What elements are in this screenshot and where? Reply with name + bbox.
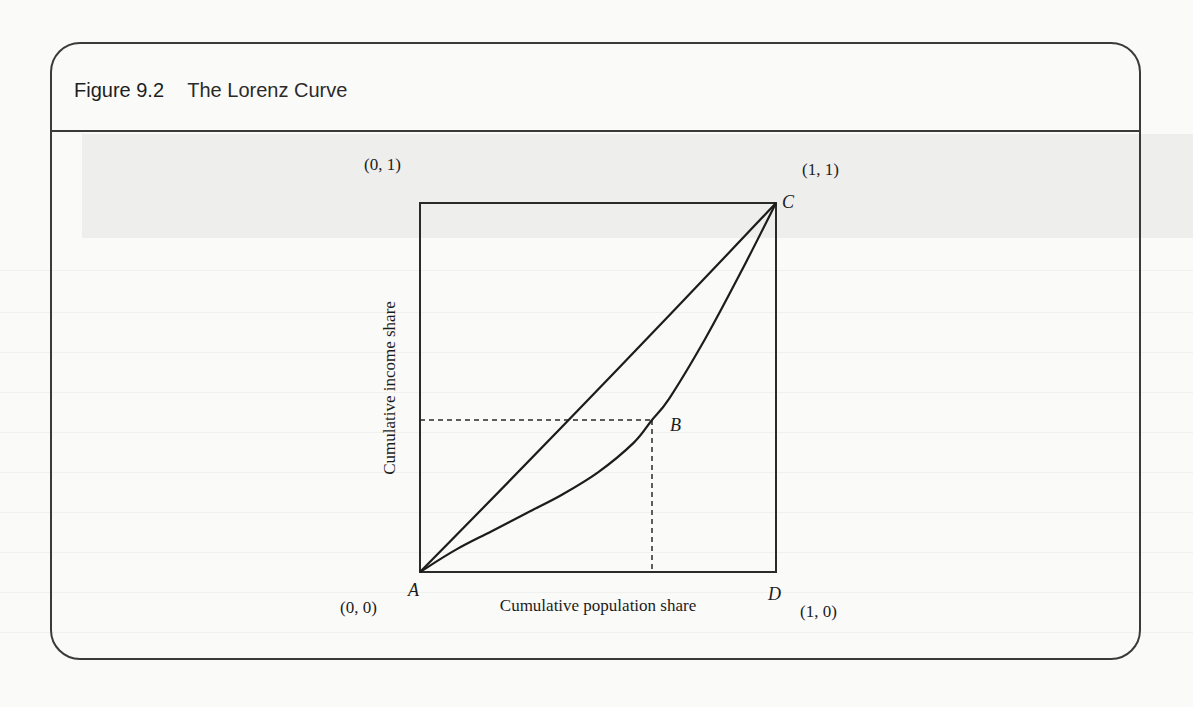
coord-label-1-1: (1, 1): [802, 160, 839, 180]
y-axis-label: Cumulative income share: [380, 301, 400, 475]
point-label-d: D: [768, 584, 781, 605]
equality-line: [420, 203, 776, 572]
point-label-c: C: [782, 192, 794, 213]
x-axis-label: Cumulative population share: [500, 596, 696, 616]
point-label-a: A: [408, 580, 419, 601]
coord-label-0-1: (0, 1): [364, 155, 401, 175]
scanned-page: Figure 9.2 The Lorenz Curve (0, 1) (1, 1…: [0, 0, 1193, 707]
coord-label-1-0: (1, 0): [800, 602, 837, 622]
coord-label-0-0: (0, 0): [340, 598, 377, 618]
point-label-b: B: [670, 415, 681, 436]
